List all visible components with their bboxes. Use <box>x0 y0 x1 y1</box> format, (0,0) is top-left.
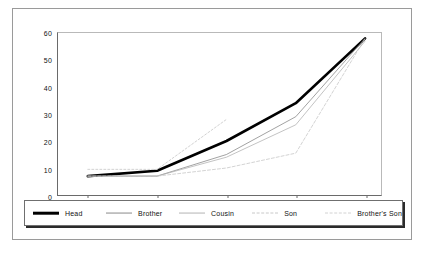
x-axis-tick-mark <box>297 195 298 198</box>
legend-label: Head <box>65 210 83 217</box>
legend-label: Son <box>284 210 297 217</box>
x-axis-tick-mark <box>88 195 89 198</box>
y-axis-tick-label: 10 <box>44 166 52 173</box>
y-axis-tick-label: 30 <box>44 112 52 119</box>
legend-item[interactable]: Brother's Son <box>317 209 402 217</box>
chart-legend: HeadBrotherCousinSonBrother's Son <box>24 200 403 226</box>
legend-label: Brother <box>138 210 162 217</box>
legend-swatch-icon <box>106 209 132 217</box>
x-axis-tick-mark <box>157 195 158 198</box>
series-line <box>88 38 365 176</box>
legend-item[interactable]: Head <box>25 209 98 217</box>
legend-label: Brother's Son <box>357 210 402 217</box>
series-line <box>88 38 365 176</box>
legend-swatch-icon <box>252 209 278 217</box>
legend-swatch-icon <box>325 209 351 217</box>
y-axis-tick-label: 60 <box>44 30 52 37</box>
series-line <box>88 38 365 176</box>
legend-swatch-icon <box>179 209 205 217</box>
x-axis-tick-mark <box>367 195 368 198</box>
y-axis-tick-label: 40 <box>44 84 52 91</box>
legend-item[interactable]: Cousin <box>171 209 244 217</box>
legend-label: Cousin <box>211 210 234 217</box>
plot-area: 0102030405060 21-3031-4041-5051-6061-70 <box>57 32 382 196</box>
y-axis-tick-label: 20 <box>44 139 52 146</box>
y-axis-tick-label: 50 <box>44 57 52 64</box>
legend-swatch-icon <box>33 209 59 217</box>
x-axis-tick-mark <box>227 195 228 198</box>
plot-lines <box>58 33 381 195</box>
series-line <box>88 41 365 176</box>
legend-item[interactable]: Son <box>244 209 317 217</box>
series-line <box>88 119 227 169</box>
legend-item[interactable]: Brother <box>98 209 171 217</box>
